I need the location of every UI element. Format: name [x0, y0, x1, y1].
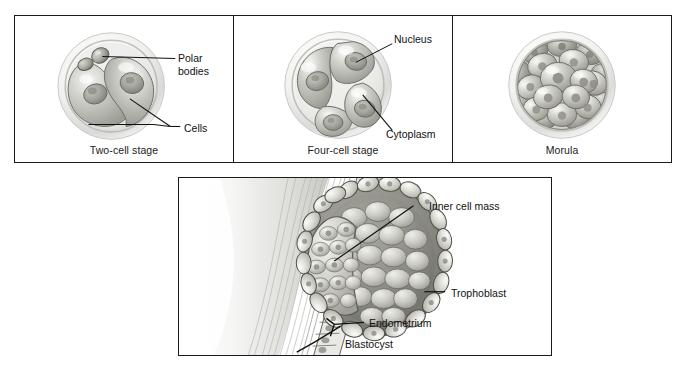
label-polar-bodies-line1: Polar	[178, 52, 203, 64]
label-cytoplasm: Cytoplasm	[386, 128, 436, 141]
label-endometrium: Endometrium	[369, 317, 431, 330]
label-polar-bodies-line2: bodies	[178, 65, 209, 77]
caption-four-cell-stage: Four-cell stage	[234, 144, 452, 156]
label-cells: Cells	[184, 122, 207, 135]
panel-four-cell-stage: Nucleus Cytoplasm Four-cell stage	[233, 15, 453, 163]
label-polar-bodies: Polar bodies	[178, 52, 234, 77]
caption-two-cell-stage: Two-cell stage	[15, 144, 233, 156]
panel-two-cell-stage: Polar bodies Cells Two-cell stage	[14, 15, 234, 163]
two-cell-embryo-illustration	[15, 16, 233, 162]
label-trophoblast: Trophoblast	[451, 287, 506, 300]
panel-blastocyst-implantation: Inner cell mass Trophoblast Endometrium …	[178, 177, 552, 356]
embryo-development-figure: Polar bodies Cells Two-cell stage	[0, 0, 686, 377]
label-nucleus: Nucleus	[394, 33, 432, 46]
caption-morula: Morula	[453, 144, 671, 156]
panel-morula: Morula	[452, 15, 672, 163]
label-inner-cell-mass: Inner cell mass	[429, 200, 500, 213]
morula-illustration	[453, 16, 671, 162]
label-blastocyst: Blastocyst	[345, 338, 393, 351]
